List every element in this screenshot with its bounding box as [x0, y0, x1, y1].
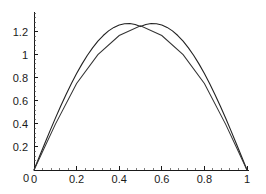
y-tick-label: 1.2: [13, 26, 28, 38]
x-tick-label: 1: [244, 173, 250, 185]
series-piecewise-curve: [34, 26, 247, 170]
x-tick-label: 0.8: [197, 173, 212, 185]
y-tick-label: 1: [22, 49, 28, 61]
y-tick-label: 0.8: [13, 72, 28, 84]
x-tick-label: 0.6: [154, 173, 169, 185]
x-tick-label: 0.2: [69, 173, 84, 185]
origin-label: 0: [23, 172, 29, 184]
x-tick-label: 0: [31, 173, 37, 185]
y-tick-label: 0.6: [13, 95, 28, 107]
chart-canvas: 00.20.40.60.810.20.40.60.811.20: [0, 0, 266, 194]
series-smooth-curve: [34, 24, 247, 170]
y-tick-label: 0.4: [13, 118, 28, 130]
x-tick-label: 0.4: [112, 173, 127, 185]
chart-figure: 00.20.40.60.810.20.40.60.811.20: [0, 0, 266, 194]
y-tick-label: 0.2: [13, 141, 28, 153]
